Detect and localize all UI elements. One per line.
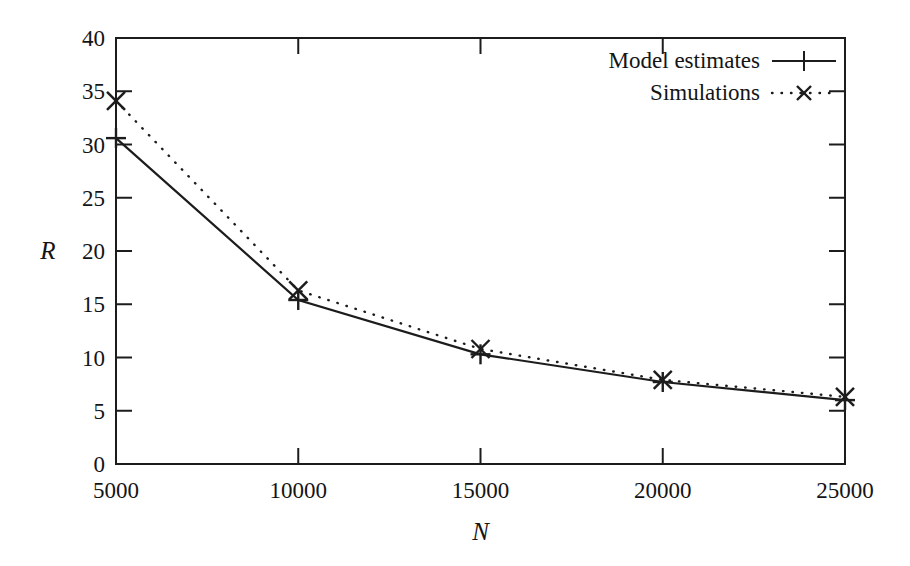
- x-axis-title: N: [471, 518, 490, 545]
- y-tick-label: 30: [82, 133, 105, 158]
- chart-svg: 0 5 10 15 20 25 30 35 40 5000 10000 1500…: [0, 0, 910, 566]
- y-axis-tick-labels: 0 5 10 15 20 25 30 35 40: [82, 26, 105, 477]
- y-tick-label: 35: [82, 79, 105, 104]
- x-axis-tick-labels: 5000 10000 15000 20000 25000: [93, 478, 874, 503]
- y-tick-label: 10: [82, 346, 105, 371]
- y-tick-label: 40: [82, 26, 105, 51]
- y-tick-label: 5: [94, 399, 106, 424]
- series-model-estimates: [106, 128, 855, 410]
- data-point-marker-model-estimates: [653, 372, 673, 392]
- x-tick-label: 5000: [93, 478, 139, 503]
- legend-label-model-estimates: Model estimates: [609, 48, 760, 73]
- model-estimates-markers: [106, 128, 855, 410]
- y-tick-label: 15: [82, 292, 105, 317]
- data-point-marker-model-estimates: [835, 390, 855, 410]
- y-axis-title: R: [39, 237, 55, 264]
- legend-label-simulations: Simulations: [650, 80, 760, 105]
- x-tick-label: 10000: [270, 478, 328, 503]
- legend: Model estimates Simulations: [609, 48, 836, 105]
- y-tick-label: 0: [94, 452, 106, 477]
- y-tick-label: 20: [82, 239, 105, 264]
- x-tick-label: 20000: [634, 478, 692, 503]
- x-tick-label: 15000: [452, 478, 510, 503]
- y-tick-label: 25: [82, 186, 105, 211]
- x-tick-label: 25000: [816, 478, 874, 503]
- chart-figure: 0 5 10 15 20 25 30 35 40 5000 10000 1500…: [0, 0, 910, 566]
- x-axis-ticks: [116, 448, 845, 464]
- legend-sample-solid-line-plus-marker: [772, 51, 836, 71]
